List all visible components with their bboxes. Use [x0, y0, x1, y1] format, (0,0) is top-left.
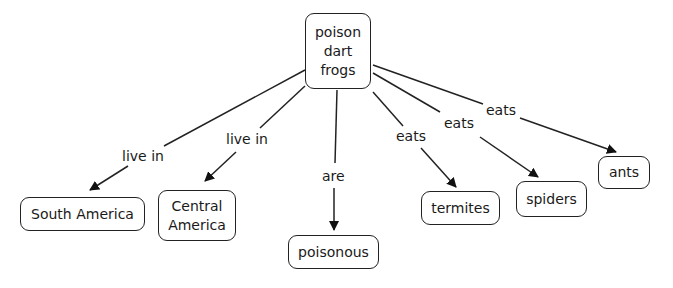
- link-label-eats-termites[interactable]: eats: [394, 128, 428, 145]
- link-label-live-in-central[interactable]: live in: [224, 131, 270, 148]
- concept-termites[interactable]: termites: [421, 191, 500, 225]
- link-label-eats-spiders[interactable]: eats: [442, 115, 476, 132]
- concept-spiders[interactable]: spiders: [516, 181, 587, 217]
- link-label-eats-ants[interactable]: eats: [484, 102, 518, 119]
- concept-poison-dart-frogs[interactable]: poison dart frogs: [305, 13, 371, 89]
- concept-ants[interactable]: ants: [598, 156, 650, 189]
- concept-central-america[interactable]: Central America: [158, 190, 236, 241]
- link-label-are[interactable]: are: [320, 168, 347, 185]
- concept-poisonous[interactable]: poisonous: [288, 235, 379, 269]
- link-label-live-in-south[interactable]: live in: [120, 148, 166, 165]
- concept-south-america[interactable]: South America: [20, 197, 145, 231]
